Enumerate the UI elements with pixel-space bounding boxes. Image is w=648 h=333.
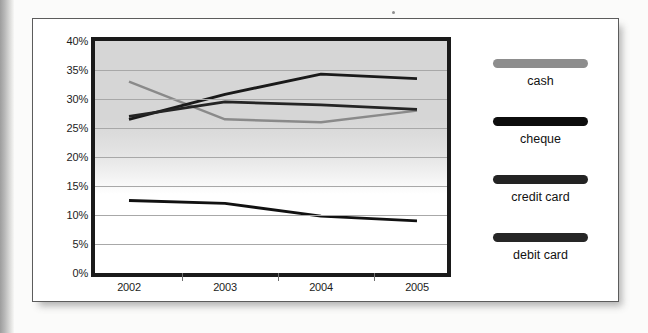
y-axis-tick-label: 35% xyxy=(36,65,88,76)
x-axis-tick-label: 2005 xyxy=(387,281,447,294)
legend-item-debit-card[interactable]: debit card xyxy=(473,233,608,262)
y-axis-tick-label: 5% xyxy=(36,239,88,250)
y-axis-tick-label: 15% xyxy=(36,181,88,192)
legend-label: credit card xyxy=(473,190,608,204)
legend-item-cheque[interactable]: cheque xyxy=(473,117,608,146)
legend-swatch-icon xyxy=(493,59,588,68)
y-axis-tick-label: 0% xyxy=(36,268,88,279)
series-line-credit-card xyxy=(129,74,417,119)
series-line-debit-card xyxy=(129,102,417,117)
page-edge-shadow xyxy=(0,0,14,333)
legend-label: cash xyxy=(473,74,608,88)
gridline xyxy=(95,244,447,245)
x-axis: 2002200320042005 xyxy=(91,281,451,301)
legend-item-credit-card[interactable]: credit card xyxy=(473,175,608,204)
x-axis-tick-label: 2002 xyxy=(99,281,159,294)
series-line-cheque xyxy=(129,201,417,221)
gridline xyxy=(95,99,447,100)
scanned-page-background: 0%5%10%15%20%25%30%35%40% 20022003200420… xyxy=(0,0,648,333)
gridline xyxy=(95,70,447,71)
x-axis-tick-label: 2003 xyxy=(195,281,255,294)
x-axis-tick-mark xyxy=(182,273,183,281)
gridline xyxy=(95,215,447,216)
series-line-cash xyxy=(129,82,417,123)
y-axis-tick-label: 30% xyxy=(36,94,88,105)
figure-card: 0%5%10%15%20%25%30%35%40% 20022003200420… xyxy=(32,18,619,302)
chart-legend: cashchequecredit carddebit card xyxy=(473,59,608,279)
y-axis: 0%5%10%15%20%25%30%35%40% xyxy=(33,37,88,277)
plot-area xyxy=(91,37,451,277)
legend-item-cash[interactable]: cash xyxy=(473,59,608,88)
legend-swatch-icon xyxy=(493,233,588,242)
y-axis-tick-label: 20% xyxy=(36,152,88,163)
y-axis-tick-label: 25% xyxy=(36,123,88,134)
legend-label: debit card xyxy=(473,248,608,262)
line-chart: 0%5%10%15%20%25%30%35%40% 20022003200420… xyxy=(33,19,618,301)
legend-swatch-icon xyxy=(493,175,588,184)
gridline xyxy=(95,128,447,129)
legend-swatch-icon xyxy=(493,117,588,126)
legend-label: cheque xyxy=(473,132,608,146)
x-axis-tick-mark xyxy=(374,273,375,281)
gridline xyxy=(95,186,447,187)
x-axis-tick-mark xyxy=(278,273,279,281)
x-axis-tick-label: 2004 xyxy=(291,281,351,294)
y-axis-tick-label: 10% xyxy=(36,210,88,221)
y-axis-tick-label: 40% xyxy=(36,36,88,47)
scan-speck xyxy=(392,11,395,14)
gridline xyxy=(95,157,447,158)
